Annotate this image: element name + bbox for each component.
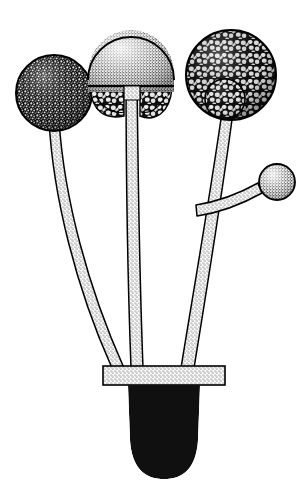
fungus-illustration-figure <box>0 0 307 484</box>
illustration-canvas <box>0 0 307 484</box>
stolon <box>103 366 225 385</box>
rhizoid-mass <box>128 385 200 479</box>
middle-columella <box>124 86 140 100</box>
right-sporangium <box>186 30 276 120</box>
young-sporangium <box>259 164 295 200</box>
left-sporangium <box>16 55 92 131</box>
